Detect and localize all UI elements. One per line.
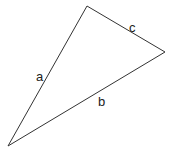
triangle-shape	[8, 6, 165, 146]
side-a-label: a	[36, 69, 44, 84]
side-b-label: b	[98, 94, 105, 109]
side-c-label: c	[129, 20, 136, 35]
triangle-diagram: a b c	[0, 0, 171, 156]
